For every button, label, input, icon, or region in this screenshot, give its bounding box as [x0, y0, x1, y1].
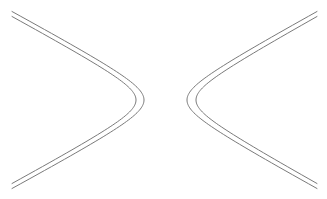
left-branch-inner: [12, 17, 136, 184]
left-branch: [12, 12, 144, 189]
diagram-canvas: [0, 0, 327, 199]
left-branch-outer: [12, 12, 144, 189]
right-branch-outer: [187, 12, 317, 189]
right-branch: [187, 12, 317, 189]
hyperbola-diagram: [0, 0, 327, 199]
right-branch-inner: [196, 17, 317, 184]
